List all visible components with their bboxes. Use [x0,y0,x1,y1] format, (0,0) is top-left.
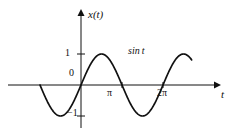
plot-canvas [0,0,232,135]
y-axis-arrowhead [78,9,85,16]
curve-annotation-label: sin t [128,46,144,56]
x-axis-arrowhead [214,82,221,89]
y-tick-label-negative-one: −1 [67,108,78,118]
y-tick-label-one: 1 [65,48,70,58]
x-axis-label: t [221,89,224,100]
x-tick-label-two-pi: 2π [157,88,167,98]
origin-label: 0 [69,68,74,78]
sine-wave-figure: x(t) t 1 0 −1 π 2π sin t [0,0,232,135]
y-axis-label: x(t) [88,9,103,20]
x-tick-label-pi: π [107,88,112,98]
